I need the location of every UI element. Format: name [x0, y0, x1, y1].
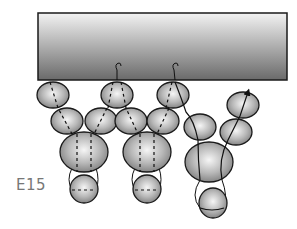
bead-top-2 — [101, 82, 133, 108]
bead-right-c — [227, 92, 259, 118]
bead-right-drop — [199, 188, 227, 218]
bead-top-3 — [157, 82, 189, 108]
bar — [38, 13, 287, 80]
bead-big-1 — [60, 132, 108, 172]
bead-mid-3 — [115, 108, 147, 134]
bead-mid-1 — [51, 108, 83, 134]
bead-drop-1 — [70, 175, 98, 203]
beads — [37, 82, 259, 218]
bead-right-big — [185, 142, 233, 182]
bead-right-a — [184, 114, 216, 140]
bead-drop-2 — [133, 175, 161, 203]
bead-top-1 — [37, 82, 69, 108]
figure-label: E15 — [16, 176, 46, 194]
beading-diagram — [0, 0, 297, 229]
bead-big-2 — [123, 132, 171, 172]
